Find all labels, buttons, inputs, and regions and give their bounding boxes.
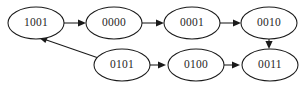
- edge-1001-to-0000: [64, 19, 86, 26]
- graph-canvas: 1001 0000 0001 0010 0101 0100: [0, 0, 306, 86]
- node-label: 0101: [110, 58, 134, 70]
- node-label: 0011: [258, 58, 282, 70]
- node-1001[interactable]: 1001: [8, 7, 64, 39]
- node-0101[interactable]: 0101: [94, 49, 150, 81]
- edge-line: [45, 40, 97, 58]
- edge-layer: [39, 19, 273, 68]
- edge-0101-to-1001: [39, 36, 98, 57]
- node-0001[interactable]: 0001: [164, 7, 220, 39]
- edge-0100-to-0011: [224, 61, 240, 68]
- node-0000[interactable]: 0000: [86, 7, 142, 39]
- state-transition-diagram: 1001 0000 0001 0010 0101 0100: [0, 0, 306, 86]
- node-0010[interactable]: 0010: [241, 7, 297, 39]
- arrowhead-icon: [265, 41, 272, 49]
- arrowhead-icon: [233, 19, 241, 26]
- edge-0010-to-0011: [265, 39, 272, 49]
- node-label: 0100: [184, 58, 208, 70]
- node-0100[interactable]: 0100: [168, 49, 224, 81]
- node-0011[interactable]: 0011: [242, 49, 298, 81]
- arrowhead-icon: [158, 61, 166, 68]
- node-label: 0010: [257, 16, 281, 28]
- arrowhead-icon: [78, 19, 86, 26]
- node-label: 1001: [24, 16, 48, 28]
- edge-0001-to-0010: [220, 19, 241, 26]
- node-label: 0001: [180, 16, 204, 28]
- edge-0101-to-0100: [150, 61, 166, 68]
- arrowhead-icon: [232, 61, 240, 68]
- node-layer: 1001 0000 0001 0010 0101 0100: [8, 7, 298, 81]
- arrowhead-icon: [156, 19, 164, 26]
- node-label: 0000: [102, 16, 126, 28]
- edge-0000-to-0001: [142, 19, 164, 26]
